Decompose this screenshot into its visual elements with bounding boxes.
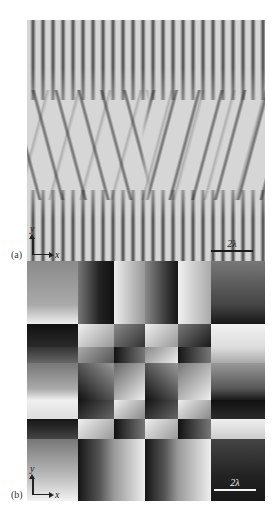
y-arrow-icon: [29, 474, 35, 479]
phase-cell: [78, 419, 114, 439]
scale-bar-b: 2λ: [214, 475, 256, 491]
x-arrow-icon: [49, 252, 54, 258]
phase-cell: [27, 363, 78, 400]
phase-cell: [114, 400, 145, 419]
phase-cell: [145, 363, 178, 400]
x-axis-line: [32, 254, 50, 256]
phase-cell: [78, 347, 114, 363]
phase-cell: [211, 363, 265, 400]
scale-bar-a: 2λ: [211, 236, 253, 252]
phase-cell: [114, 261, 145, 324]
phase-cell: [178, 419, 211, 439]
phase-cell: [114, 419, 145, 439]
y-axis-line: [32, 477, 34, 495]
axes-indicator-a: y x: [29, 227, 59, 257]
phase-cell: [211, 261, 265, 324]
y-arrow-icon: [29, 234, 35, 239]
scale-bar-line: [214, 489, 256, 491]
phase-cell: [178, 324, 211, 347]
phase-cell: [211, 439, 265, 501]
y-axis-line: [32, 237, 34, 255]
phase-cell: [178, 261, 211, 324]
phase-cell: [145, 400, 178, 419]
phase-vortex-image: y x 2λ: [27, 261, 265, 501]
phase-cell: [178, 347, 211, 363]
axes-indicator-b: y x: [29, 467, 59, 497]
phase-cell: [27, 261, 78, 324]
phase-cell: [27, 400, 78, 419]
x-axis-line: [32, 494, 50, 496]
phase-cell: [145, 439, 178, 501]
phase-cell: [114, 439, 145, 501]
scale-bar-label: 2λ: [214, 477, 256, 488]
phase-cell: [78, 439, 114, 501]
phase-cell: [178, 363, 211, 400]
phase-cell: [145, 347, 178, 363]
phase-cell: [145, 261, 178, 324]
x-axis-label: x: [55, 489, 59, 500]
x-axis-label: x: [55, 249, 59, 260]
vertical-fringes-top: [27, 20, 265, 100]
phase-cell: [78, 324, 114, 347]
phase-cell: [178, 439, 211, 501]
y-axis-label: y: [30, 463, 34, 474]
phase-cell: [78, 261, 114, 324]
phase-cell: [211, 324, 265, 347]
phase-cell: [114, 324, 145, 347]
phase-cell: [78, 363, 114, 400]
phase-cell: [27, 324, 78, 347]
y-axis-label: y: [30, 223, 34, 234]
phase-cell: [78, 400, 114, 419]
scale-bar-line: [211, 250, 253, 252]
diagonal-fringes-right: [27, 90, 265, 200]
panel-label-a: (a): [11, 249, 22, 260]
scale-bar-label: 2λ: [211, 238, 253, 249]
phase-cell: [145, 419, 178, 439]
phase-cell: [27, 419, 78, 439]
phase-cell: [27, 347, 78, 363]
fringe-pattern-image: y x 2λ: [27, 20, 265, 261]
x-arrow-icon: [49, 492, 54, 498]
phase-cell: [211, 400, 265, 419]
phase-cell: [211, 347, 265, 363]
phase-cell: [114, 363, 145, 400]
phase-cell: [211, 419, 265, 439]
phase-cell: [114, 347, 145, 363]
panel-label-b: (b): [11, 489, 23, 500]
phase-cell: [178, 400, 211, 419]
phase-cell: [145, 324, 178, 347]
